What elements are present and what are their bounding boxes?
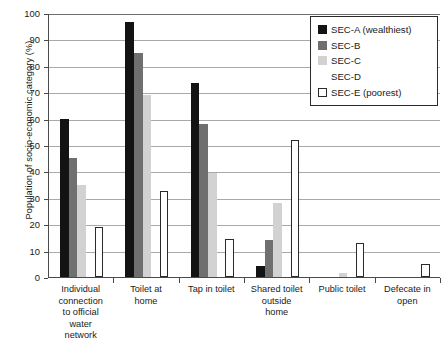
x-tick-mark xyxy=(440,278,441,283)
y-tick-label: 100 xyxy=(2,8,40,19)
x-tick-mark xyxy=(244,278,245,283)
y-tick-label: 80 xyxy=(2,61,40,72)
bar xyxy=(95,227,104,277)
y-tick-label: 40 xyxy=(2,166,40,177)
bar-group xyxy=(114,14,179,277)
bar xyxy=(77,185,86,277)
bar xyxy=(125,22,134,277)
bar xyxy=(160,191,169,277)
legend-swatch-icon xyxy=(318,72,327,81)
bar-group xyxy=(245,14,310,277)
legend-swatch-icon xyxy=(318,88,327,97)
x-axis-category-label: Defecate inopen xyxy=(369,284,446,307)
legend-label: SEC-C xyxy=(331,55,361,66)
bar xyxy=(356,243,365,277)
y-tick-label: 70 xyxy=(2,87,40,98)
bar xyxy=(339,273,348,277)
bar xyxy=(291,140,300,277)
legend-label: SEC-E (poorest) xyxy=(331,87,401,98)
x-label-line: water xyxy=(42,319,119,331)
x-label-line: home xyxy=(107,296,184,308)
bar-chart: Population of socio-economic category (%… xyxy=(0,0,447,354)
x-label-line: open xyxy=(369,296,446,308)
x-label-line: network xyxy=(42,330,119,342)
legend-item: SEC-B xyxy=(318,38,431,54)
legend-swatch-icon xyxy=(318,41,327,50)
legend-item: SEC-C xyxy=(318,53,431,69)
legend-label: SEC-A (wealthiest) xyxy=(331,24,412,35)
bar xyxy=(265,240,274,277)
x-label-line: outside xyxy=(238,296,315,308)
y-tick-label: 20 xyxy=(2,219,40,230)
legend-label: SEC-B xyxy=(331,40,360,51)
x-tick-mark xyxy=(309,278,310,283)
legend-item: SEC-D xyxy=(318,69,431,85)
x-label-line: to official xyxy=(42,307,119,319)
bar xyxy=(191,83,200,277)
bar xyxy=(225,239,234,277)
y-tick-label: 90 xyxy=(2,34,40,45)
bar xyxy=(256,266,265,277)
y-tick-label: 50 xyxy=(2,140,40,151)
y-tick-label: 10 xyxy=(2,246,40,257)
x-tick-mark xyxy=(113,278,114,283)
bar xyxy=(199,124,208,277)
y-tick-label: 0 xyxy=(2,272,40,283)
bar xyxy=(421,264,430,277)
legend-item: SEC-A (wealthiest) xyxy=(318,22,431,38)
legend-label: SEC-D xyxy=(331,71,361,82)
y-tick-mark xyxy=(44,278,48,279)
bar xyxy=(143,95,152,277)
legend: SEC-A (wealthiest)SEC-BSEC-CSEC-DSEC-E (… xyxy=(310,16,438,106)
bar-group xyxy=(49,14,114,277)
bar xyxy=(208,173,217,277)
x-tick-mark xyxy=(179,278,180,283)
bar xyxy=(134,53,143,277)
legend-item: SEC-E (poorest) xyxy=(318,84,431,100)
x-tick-mark xyxy=(375,278,376,283)
x-label-line: Defecate in xyxy=(369,284,446,296)
y-tick-label: 60 xyxy=(2,114,40,125)
bar xyxy=(273,203,282,277)
bar xyxy=(60,119,69,277)
x-label-line: home xyxy=(238,307,315,319)
bar-group xyxy=(180,14,245,277)
legend-swatch-icon xyxy=(318,56,327,65)
top-artifact xyxy=(150,0,230,6)
legend-swatch-icon xyxy=(318,25,327,34)
bar xyxy=(69,158,78,277)
y-tick-label: 30 xyxy=(2,193,40,204)
